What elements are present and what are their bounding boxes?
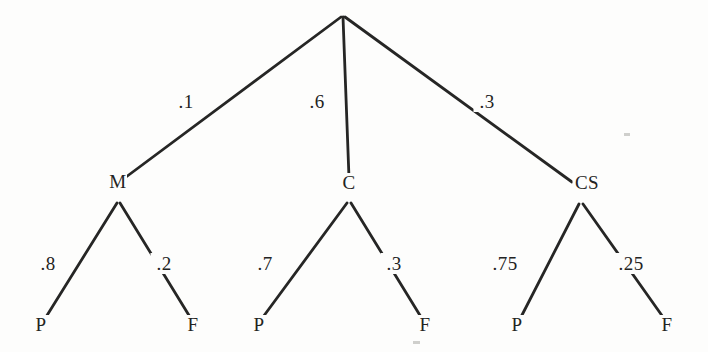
- node-labels-layer: MCCSPFPFPF: [32, 171, 676, 335]
- tree-node-M-F: F: [187, 314, 198, 335]
- tree-node-CS-F: F: [661, 314, 672, 335]
- edge-probability-label-root-CS: .3: [479, 91, 494, 112]
- scan-artifacts-layer: [413, 133, 630, 344]
- tree-edge-root-C: [343, 17, 349, 178]
- edge-probability-label-C-P-edge: .7: [257, 253, 272, 274]
- edge-probability-label-M-F-edge: .2: [156, 253, 171, 274]
- tree-node-C-F: F: [419, 314, 430, 335]
- tree-node-CS-P: P: [511, 314, 522, 335]
- tree-node-CS: CS: [575, 172, 599, 193]
- tree-canvas: .1.6.3.8.2.7.3.75.25 MCCSPFPFPF: [0, 0, 708, 352]
- edge-probability-label-C-F-edge: .3: [386, 253, 401, 274]
- tree-node-C: C: [342, 172, 355, 193]
- edge-probability-label-M-P-edge: .8: [40, 253, 55, 274]
- probability-tree-diagram: .1.6.3.8.2.7.3.75.25 MCCSPFPFPF: [0, 0, 708, 352]
- tree-node-M: M: [109, 171, 126, 192]
- edge-probability-label-CS-P-edge: .75: [492, 253, 517, 274]
- tree-edge-root-CS: [345, 17, 572, 182]
- tree-node-C-P: P: [253, 314, 264, 335]
- edge-probability-label-root-M: .1: [178, 91, 193, 112]
- tree-edge-CS-P-edge: [521, 204, 579, 317]
- scan-speck-1: [413, 341, 420, 344]
- tree-node-M-P: P: [35, 314, 46, 335]
- edge-probability-label-CS-F-edge: .25: [618, 253, 643, 274]
- edges-layer: [46, 17, 663, 317]
- edge-probability-label-root-C: .6: [309, 91, 324, 112]
- scan-speck-0: [624, 133, 630, 136]
